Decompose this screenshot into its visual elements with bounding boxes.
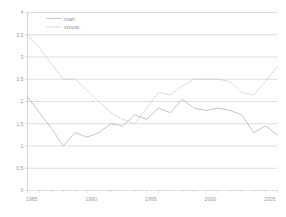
x-tick-label-0: 1985 — [26, 196, 38, 202]
series-line-man — [28, 97, 278, 146]
legend-label-man: man — [64, 16, 75, 22]
chart-canvas: 00,511,522,533,54 19851990199520002005 m… — [0, 0, 286, 217]
x-tick-label-1: 1990 — [86, 196, 98, 202]
y-tick-label-0: 0 — [21, 187, 24, 193]
chart-legend: manvrouw — [47, 16, 80, 31]
y-tick-label-4: 2 — [21, 98, 24, 104]
y-tick-label-5: 2,5 — [16, 76, 23, 82]
x-axis-tick-labels: 19851990199520002005 — [26, 196, 276, 202]
y-tick-label-6: 3 — [21, 54, 24, 60]
data-series — [28, 35, 278, 146]
x-tick-label-4: 2005 — [264, 196, 276, 202]
y-tick-label-3: 1,5 — [16, 121, 23, 127]
legend-label-vrouw: vrouw — [64, 24, 80, 30]
line-chart: 00,511,522,533,54 19851990199520002005 m… — [0, 0, 286, 217]
y-tick-label-2: 1 — [21, 143, 24, 149]
y-tick-label-7: 3,5 — [16, 32, 23, 38]
x-tick-label-3: 2000 — [205, 196, 217, 202]
y-tick-label-8: 4 — [21, 9, 24, 15]
x-tick-label-2: 1995 — [145, 196, 157, 202]
y-axis-tick-labels: 00,511,522,533,54 — [16, 9, 23, 193]
gridlines — [28, 13, 278, 191]
y-tick-label-1: 0,5 — [16, 165, 23, 171]
